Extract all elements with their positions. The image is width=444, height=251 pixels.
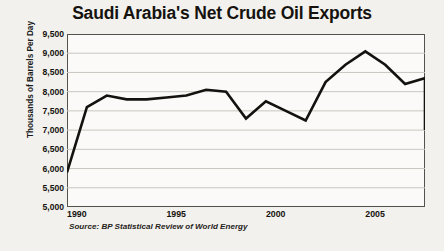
y-tick-label: 8,000: [42, 87, 64, 97]
line-chart-svg: [67, 34, 425, 207]
plot-area-wrapper: [67, 34, 425, 207]
data-series-line: [67, 51, 425, 172]
x-tick-label: 2000: [266, 209, 286, 219]
y-tick-label: 8,500: [42, 67, 64, 77]
source-caption: Source: BP Statistical Review of World E…: [69, 222, 248, 231]
y-tick-label: 6,000: [42, 164, 64, 174]
y-tick-label: 5,000: [42, 202, 64, 212]
x-tick-label: 2005: [365, 209, 385, 219]
gridlines: [67, 53, 425, 188]
x-tick-label: 1995: [166, 209, 186, 219]
y-tick-label: 9,000: [42, 48, 64, 58]
y-tick-label: 7,500: [42, 106, 64, 116]
y-tick-label: 9,500: [42, 29, 64, 39]
y-tick-label: 6,500: [42, 144, 64, 154]
x-axis-tick-labels: 1990199520002005: [67, 209, 427, 223]
y-tick-label: 7,000: [42, 125, 64, 135]
chart-figure: Saudi Arabia's Net Crude Oil Exports Tho…: [0, 0, 444, 251]
chart-title: Saudi Arabia's Net Crude Oil Exports: [0, 3, 444, 24]
y-tick-label: 5,500: [42, 183, 64, 193]
y-axis-tick-labels: 5,0005,5006,0006,5007,0007,5008,0008,500…: [28, 34, 64, 207]
x-tick-label: 1990: [67, 209, 87, 219]
